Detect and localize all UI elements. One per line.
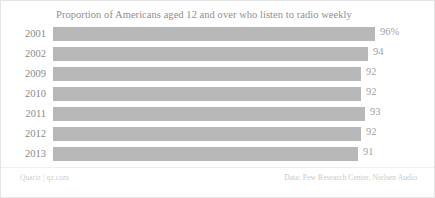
bar-row: 200196%: [1, 25, 435, 45]
bar-row: 200294: [1, 45, 435, 65]
bar-fill: [53, 67, 361, 81]
bar-category-label: 2009: [1, 68, 46, 79]
bar-category-label: 2001: [1, 28, 46, 39]
bar-row: 200992: [1, 65, 435, 85]
bar-track: [53, 147, 435, 161]
bar-fill: [53, 47, 368, 61]
footer-divider: [1, 167, 434, 168]
bar-row: 201193: [1, 105, 435, 125]
bar-value-label: 92: [366, 126, 377, 137]
bar-category-label: 2010: [1, 88, 46, 99]
bar-fill: [53, 107, 365, 121]
bar-row: 201092: [1, 85, 435, 105]
bar-fill: [53, 147, 358, 161]
bar-value-label: 91: [363, 146, 374, 157]
bar-track: [53, 127, 435, 141]
bar-fill: [53, 27, 375, 41]
bar-chart-plot-area: 200196%200294200992201092201193201292201…: [1, 25, 435, 165]
bar-value-label: 93: [370, 106, 381, 117]
bar-value-label: 96%: [380, 26, 399, 37]
bar-value-label: 94: [373, 46, 384, 57]
footer-source: Data: Pew Research Center, Nielsen Audio: [284, 173, 417, 182]
chart-title: Proportion of Americans aged 12 and over…: [56, 9, 352, 20]
bar-value-label: 92: [366, 66, 377, 77]
bar-row: 201391: [1, 145, 435, 165]
chart-card: Proportion of Americans aged 12 and over…: [0, 0, 435, 198]
bar-track: [53, 67, 435, 81]
footer-credit: Quartz | qz.com: [20, 173, 69, 182]
bar-track: [53, 87, 435, 101]
chart-footer: Quartz | qz.com Data: Pew Research Cente…: [1, 173, 434, 187]
bar-category-label: 2011: [1, 108, 46, 119]
bar-category-label: 2012: [1, 128, 46, 139]
bar-value-label: 92: [366, 86, 377, 97]
bar-row: 201292: [1, 125, 435, 145]
bar-category-label: 2002: [1, 48, 46, 59]
bar-fill: [53, 127, 361, 141]
bar-fill: [53, 87, 361, 101]
bar-track: [53, 27, 435, 41]
bar-category-label: 2013: [1, 148, 46, 159]
